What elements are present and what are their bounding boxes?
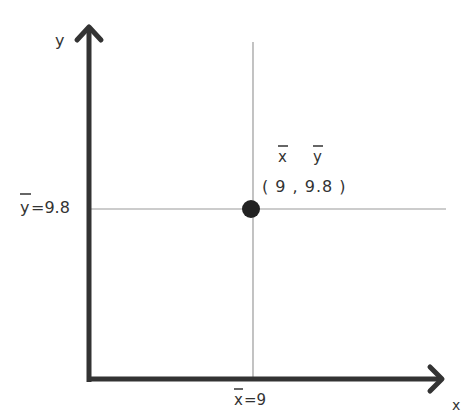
mean-point-diagram: y x x x x y ( 9 , 9.8 ) y =9.8 x =9 bbox=[0, 0, 472, 417]
mean-point-marker bbox=[242, 200, 260, 218]
y-mean-var: y bbox=[20, 198, 29, 217]
mean-point-coords: ( 9 , 9.8 ) bbox=[262, 177, 347, 196]
x-axis bbox=[87, 367, 442, 391]
y-axis-label: y bbox=[55, 31, 64, 50]
x-axis-label: x bbox=[452, 397, 460, 413]
y-axis bbox=[77, 27, 101, 382]
y-mean-value: =9.8 bbox=[31, 198, 70, 217]
mean-header-x: x bbox=[278, 148, 287, 166]
x-mean-var: x bbox=[234, 391, 243, 409]
mean-header-y: y bbox=[313, 148, 322, 166]
x-mean-value: =9 bbox=[244, 391, 266, 409]
